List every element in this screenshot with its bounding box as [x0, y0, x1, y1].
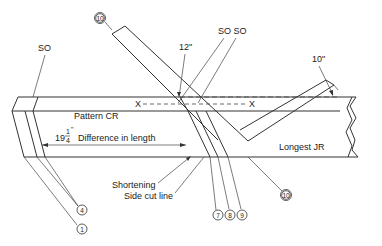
difference-inch: " [71, 126, 74, 133]
svg-text:7: 7 [216, 212, 220, 219]
pattern-cr-label: Pattern CR [74, 111, 119, 121]
longest-jr-label: Longest JR [279, 142, 325, 152]
side-cut-line-leader [175, 157, 204, 193]
dim-12-leader [179, 54, 185, 97]
svg-text:10: 10 [96, 15, 104, 22]
callout-8: 8 [225, 210, 235, 220]
difference-whole: 19 [55, 133, 65, 143]
callout-10-top: 10 [95, 13, 106, 24]
callout-4: 4 [77, 205, 87, 215]
x-left-label: X [135, 99, 141, 109]
dim-12-label: 12" [179, 42, 192, 52]
difference-frac-num: 1 [66, 128, 70, 135]
difference-frac-den: 4 [66, 137, 70, 144]
callout-1: 1 [77, 224, 87, 234]
svg-text:8: 8 [228, 212, 232, 219]
difference-dimension: 19 1 4 " Difference in length [42, 126, 186, 147]
upper-rafter [112, 26, 338, 141]
shortening-leader [158, 157, 190, 183]
so-pair-label: SO SO [218, 26, 247, 36]
callout-9: 9 [237, 210, 247, 220]
callout-7: 7 [213, 210, 223, 220]
svg-text:4: 4 [80, 207, 84, 214]
x-right-label: X [249, 99, 255, 109]
callout-10-bottom: 10 [281, 190, 292, 201]
x-x-line: X X [135, 97, 340, 109]
so-left-label: SO [38, 43, 51, 53]
dim-10-label: 10" [312, 54, 325, 64]
rafter-layout-diagram: X X SO SO SO 12" 10" Pattern CR 19 [0, 0, 382, 246]
svg-text:10: 10 [282, 192, 290, 199]
svg-text:1: 1 [80, 226, 84, 233]
difference-text: Difference in length [78, 133, 155, 143]
shortening-label: Shortening [112, 180, 156, 190]
svg-text:9: 9 [240, 212, 244, 219]
so-left-leader [33, 55, 45, 97]
side-cut-line-label: Side cut line [124, 191, 173, 201]
